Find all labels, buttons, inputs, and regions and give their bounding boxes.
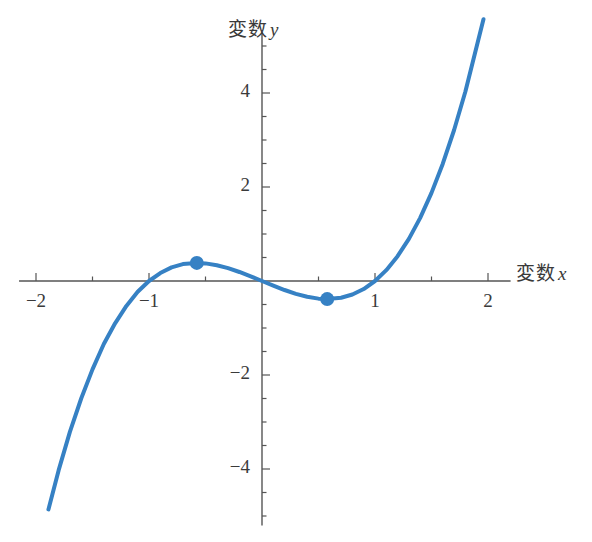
cubic-function-plot xyxy=(0,0,592,542)
y-tick-label: −2 xyxy=(200,362,250,384)
y-tick-label: 2 xyxy=(200,174,250,196)
y-axis-label-symbol: y xyxy=(267,19,279,40)
x-axis-label-text: 変数 xyxy=(516,263,555,284)
x-tick-label: 2 xyxy=(463,290,513,312)
chart-figure: 変数y 変数x −2−11242−2−4 xyxy=(0,0,592,542)
x-tick-label: 1 xyxy=(350,290,400,312)
x-tick-label: −2 xyxy=(11,290,61,312)
y-tick-label: −4 xyxy=(200,456,250,478)
x-tick-label: −1 xyxy=(124,290,174,312)
x-axis-label-symbol: x xyxy=(555,263,567,284)
marker-local-maximum xyxy=(190,256,204,270)
x-axis-label: 変数x xyxy=(516,258,567,285)
marker-local-minimum xyxy=(320,292,334,306)
y-axis-label: 変数y xyxy=(228,14,279,41)
y-axis-label-text: 変数 xyxy=(228,19,267,40)
y-tick-label: 4 xyxy=(200,80,250,102)
